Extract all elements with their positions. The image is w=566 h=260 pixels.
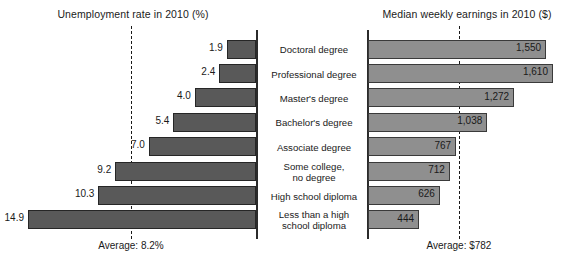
unemployment-value-label: 7.0 [85, 139, 145, 150]
chart-row: 5.4Bachelor's degree1,038 [0, 111, 566, 135]
unemployment-value-label: 10.3 [34, 188, 94, 199]
category-label: Doctoral degree [262, 38, 366, 62]
category-label: Master's degree [262, 86, 366, 110]
category-label: Less than a highschool diploma [262, 208, 366, 232]
earnings-average-label: Average: $782 [359, 240, 559, 251]
earnings-value-label: 1,272 [452, 91, 509, 102]
earnings-value-label: 1,550 [484, 42, 541, 53]
chart-row: 10.3High school diploma626 [0, 184, 566, 208]
earnings-value-label: 1,038 [425, 115, 482, 126]
chart-row: 1.9Doctoral degree1,550 [0, 38, 566, 62]
unemployment-bar [115, 162, 256, 181]
unemployment-value-label: 14.9 [0, 212, 24, 223]
unemployment-panel-title: Unemployment rate in 2010 (%) [0, 8, 266, 20]
chart-row: 9.2Some college,no degree712 [0, 160, 566, 184]
unemployment-value-label: 1.9 [163, 42, 223, 53]
unemployment-bar [28, 210, 256, 229]
chart-row: 2.4Professional degree1,610 [0, 62, 566, 86]
chart-row: 14.9Less than a highschool diploma444 [0, 208, 566, 232]
category-label: Associate degree [262, 135, 366, 159]
unemployment-bar [173, 113, 256, 132]
unemployment-bar [98, 186, 256, 205]
earnings-panel-title: Median weekly earnings in 2010 ($) [368, 8, 566, 20]
earnings-value-label: 1,610 [491, 66, 548, 77]
earnings-value-label: 767 [394, 140, 451, 151]
chart-row: 7.0Associate degree767 [0, 135, 566, 159]
chart-row: 4.0Master's degree1,272 [0, 86, 566, 110]
earnings-value-label: 626 [378, 188, 435, 199]
unemployment-value-label: 4.0 [131, 90, 191, 101]
unemployment-bar [195, 88, 256, 107]
category-label: Professional degree [262, 62, 366, 86]
unemployment-bar [227, 40, 256, 59]
unemployment-bar [219, 64, 256, 83]
category-label: Some college,no degree [262, 160, 366, 184]
education-unemployment-earnings-chart: Unemployment rate in 2010 (%) Median wee… [0, 0, 566, 260]
earnings-value-label: 444 [357, 213, 414, 224]
unemployment-value-label: 5.4 [109, 115, 169, 126]
category-label: Bachelor's degree [262, 111, 366, 135]
unemployment-average-label: Average: 8.2% [31, 240, 231, 251]
unemployment-value-label: 9.2 [51, 164, 111, 175]
category-label: High school diploma [262, 184, 366, 208]
unemployment-bar [149, 137, 256, 156]
earnings-value-label: 712 [388, 164, 445, 175]
unemployment-value-label: 2.4 [155, 66, 215, 77]
